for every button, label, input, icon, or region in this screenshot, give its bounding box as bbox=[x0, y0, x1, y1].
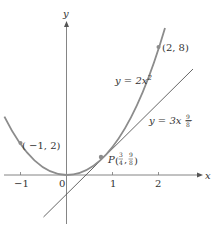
svg-text:): ) bbox=[134, 155, 138, 166]
x-axis-arrow-icon bbox=[197, 173, 203, 178]
svg-text:y = 2x2: y = 2x2 bbox=[114, 74, 152, 86]
label-point-p: P ( 3 4 , 9 8 ) bbox=[107, 151, 138, 166]
svg-text:8: 8 bbox=[186, 121, 190, 128]
x-tick-neg1: −1 bbox=[14, 178, 29, 189]
label-point-2-8: (2, 8) bbox=[162, 42, 189, 53]
tangent-line bbox=[44, 69, 194, 217]
svg-text:9: 9 bbox=[186, 113, 190, 120]
parabola-curve bbox=[4, 28, 165, 175]
y-axis: y bbox=[62, 8, 69, 224]
label-parabola: y = 2x2 bbox=[114, 74, 152, 86]
x-tick-1: 1 bbox=[110, 178, 116, 189]
y-axis-label: y bbox=[62, 8, 69, 19]
svg-text:8: 8 bbox=[129, 159, 133, 166]
x-tick-2: 2 bbox=[155, 178, 161, 189]
label-point-neg1-2: ( −1, 2) bbox=[22, 140, 61, 151]
svg-text:,: , bbox=[124, 154, 127, 165]
x-tick-0: 0 bbox=[59, 178, 65, 189]
x-axis-label: x bbox=[205, 170, 211, 181]
svg-text:3: 3 bbox=[119, 151, 123, 158]
x-axis: x −1 0 1 2 bbox=[4, 170, 211, 189]
svg-text:4: 4 bbox=[119, 159, 123, 166]
tangent-line-figure: x −1 0 1 2 y ( −1, 2) (2, 8) y = 2x2 y =… bbox=[0, 0, 215, 236]
svg-text:9: 9 bbox=[129, 151, 133, 158]
y-axis-arrow-icon bbox=[64, 21, 69, 27]
point-p bbox=[99, 155, 103, 159]
label-tangent: y = 3x − 9 8 bbox=[148, 113, 193, 128]
point-2-8 bbox=[157, 45, 161, 49]
svg-text:P: P bbox=[107, 154, 115, 165]
